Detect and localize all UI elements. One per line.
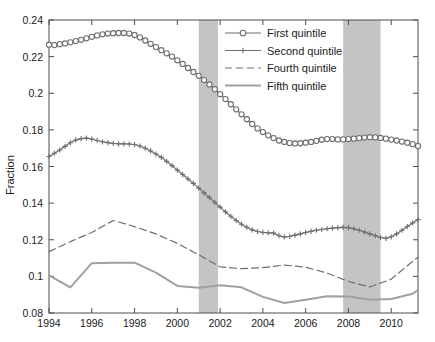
marker-circle bbox=[239, 112, 244, 117]
marker-circle bbox=[143, 38, 148, 43]
marker-circle bbox=[378, 135, 383, 140]
marker-circle bbox=[105, 31, 110, 36]
x-tick-label: 2008 bbox=[337, 317, 361, 329]
quintile-fraction-line-chart: 199419961998200020022004200620082010 0.0… bbox=[0, 0, 435, 342]
marker-circle bbox=[346, 136, 351, 141]
legend-label: Fifth quintile bbox=[267, 80, 326, 92]
marker-circle bbox=[319, 137, 324, 142]
marker-circle bbox=[52, 42, 57, 47]
marker-circle bbox=[46, 42, 51, 47]
y-tick-label: 0.22 bbox=[23, 51, 44, 63]
marker-circle bbox=[218, 92, 223, 97]
y-tick-label: 0.18 bbox=[23, 124, 44, 136]
marker-circle bbox=[153, 45, 158, 50]
y-tick-label: 0.16 bbox=[23, 161, 44, 173]
marker-circle bbox=[148, 41, 153, 46]
y-tick-label: 0.08 bbox=[23, 307, 44, 319]
marker-circle bbox=[250, 121, 255, 126]
y-tick-label: 0.12 bbox=[23, 234, 44, 246]
chart-container: 199419961998200020022004200620082010 0.0… bbox=[0, 0, 435, 342]
marker-circle bbox=[223, 97, 228, 102]
x-tick-label: 2010 bbox=[380, 317, 404, 329]
x-tick-label: 2004 bbox=[251, 317, 275, 329]
marker-circle bbox=[298, 141, 303, 146]
y-tick-label: 0.24 bbox=[23, 14, 44, 26]
y-tick-label: 0.1 bbox=[28, 270, 43, 282]
marker-circle bbox=[116, 30, 121, 35]
marker-circle bbox=[383, 136, 388, 141]
marker-circle bbox=[357, 136, 362, 141]
x-tick-label: 2006 bbox=[294, 317, 318, 329]
marker-circle bbox=[201, 77, 206, 82]
marker-circle bbox=[341, 137, 346, 142]
marker-circle bbox=[185, 65, 190, 70]
marker-circle bbox=[100, 32, 105, 37]
marker-circle bbox=[228, 102, 233, 107]
marker-circle bbox=[95, 33, 100, 38]
marker-circle bbox=[335, 137, 340, 142]
marker-circle bbox=[405, 140, 410, 145]
marker-circle bbox=[314, 138, 319, 143]
marker-circle bbox=[260, 129, 265, 134]
y-axis-label: Fraction bbox=[4, 155, 16, 195]
marker-circle bbox=[367, 135, 372, 140]
marker-circle bbox=[276, 138, 281, 143]
marker-circle bbox=[132, 32, 137, 37]
legend-marker-circle bbox=[240, 30, 246, 36]
marker-circle bbox=[271, 136, 276, 141]
marker-circle bbox=[399, 139, 404, 144]
y-tick-label: 0.14 bbox=[23, 197, 44, 209]
marker-circle bbox=[212, 87, 217, 92]
legend-label: First quintile bbox=[267, 27, 326, 39]
marker-circle bbox=[169, 54, 174, 59]
marker-circle bbox=[292, 141, 297, 146]
marker-circle bbox=[196, 73, 201, 78]
marker-circle bbox=[362, 135, 367, 140]
marker-circle bbox=[282, 139, 287, 144]
marker-circle bbox=[244, 117, 249, 122]
marker-circle bbox=[330, 136, 335, 141]
marker-circle bbox=[324, 136, 329, 141]
marker-circle bbox=[137, 35, 142, 40]
marker-circle bbox=[255, 126, 260, 131]
marker-circle bbox=[89, 34, 94, 39]
marker-circle bbox=[78, 37, 83, 42]
recession-2008 bbox=[343, 20, 380, 313]
marker-circle bbox=[127, 31, 132, 36]
marker-circle bbox=[121, 30, 126, 35]
marker-circle bbox=[62, 41, 67, 46]
marker-circle bbox=[84, 36, 89, 41]
x-tick-label: 1998 bbox=[123, 317, 147, 329]
marker-circle bbox=[266, 133, 271, 138]
marker-circle bbox=[159, 48, 164, 53]
x-tick-label: 2002 bbox=[208, 317, 232, 329]
marker-circle bbox=[303, 140, 308, 145]
marker-circle bbox=[180, 61, 185, 66]
marker-circle bbox=[394, 138, 399, 143]
marker-circle bbox=[410, 142, 415, 147]
marker-circle bbox=[191, 69, 196, 74]
marker-circle bbox=[175, 58, 180, 63]
marker-circle bbox=[68, 40, 73, 45]
marker-circle bbox=[234, 107, 239, 112]
marker-circle bbox=[389, 137, 394, 142]
marker-circle bbox=[111, 31, 116, 36]
legend-label: Second quintile bbox=[267, 45, 342, 57]
legend-label: Fourth quintile bbox=[267, 62, 337, 74]
marker-circle bbox=[164, 51, 169, 56]
x-tick-label: 2000 bbox=[166, 317, 190, 329]
y-axis-label-text: Fraction bbox=[4, 155, 16, 195]
marker-circle bbox=[373, 135, 378, 140]
marker-circle bbox=[287, 140, 292, 145]
marker-circle bbox=[73, 38, 78, 43]
recession-2001 bbox=[199, 20, 218, 313]
x-tick-label: 1996 bbox=[80, 317, 104, 329]
y-tick-label: 0.2 bbox=[28, 87, 43, 99]
marker-circle bbox=[57, 42, 62, 47]
marker-circle bbox=[207, 82, 212, 87]
marker-circle bbox=[415, 143, 420, 148]
marker-circle bbox=[351, 136, 356, 141]
marker-circle bbox=[308, 139, 313, 144]
